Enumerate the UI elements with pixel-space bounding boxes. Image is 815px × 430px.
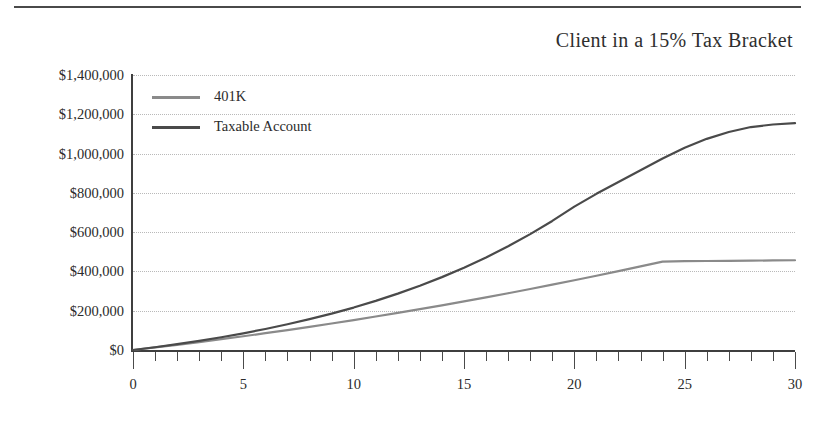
legend-item: 401K (152, 84, 382, 114)
series-line (133, 260, 795, 350)
legend-item: Taxable Account (152, 114, 382, 144)
chart-figure: $0$200,000$400,000$600,000$800,000$1,000… (0, 0, 815, 430)
legend-label: Taxable Account (214, 118, 312, 135)
legend-label: 401K (214, 88, 246, 105)
legend-swatch (152, 96, 200, 99)
chart-curves (0, 0, 815, 430)
series-line (133, 123, 795, 350)
legend-swatch (152, 126, 200, 129)
chart-legend: 401KTaxable Account (152, 84, 382, 144)
